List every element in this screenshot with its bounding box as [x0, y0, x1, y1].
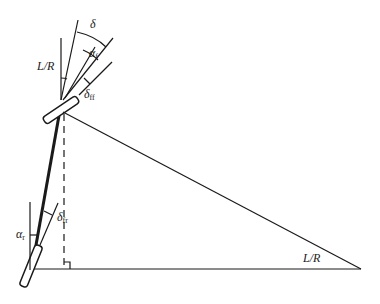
rear-wheel [19, 244, 43, 288]
delta-arc [77, 32, 106, 47]
label-steer-angle: δ [90, 18, 96, 30]
L-over-R-front-arc [61, 78, 67, 79]
steering-geometry-diagram [0, 0, 380, 304]
rear-delta-sub: fr [63, 216, 68, 225]
rear-slip-sub: r [22, 233, 25, 242]
front-delta-sub: ff [90, 93, 95, 102]
front-frame-ext [61, 20, 78, 100]
label-front-delta: δff [84, 88, 95, 102]
delta-fr-arc [44, 211, 52, 215]
label-rear-slip-angle: αr [16, 228, 25, 242]
vehicle-frame-line [33, 110, 60, 262]
label-front-slip-angle: αf [89, 47, 98, 61]
front-radius-line [63, 112, 361, 269]
right-angle-marker [64, 262, 70, 269]
label-front-L-over-R: L/R [37, 60, 54, 72]
delta-ff-arc [84, 78, 90, 84]
label-rear-delta: δfr [57, 211, 68, 225]
front-slip-sub: f [95, 52, 98, 61]
label-vertex-L-over-R: L/R [303, 252, 320, 264]
